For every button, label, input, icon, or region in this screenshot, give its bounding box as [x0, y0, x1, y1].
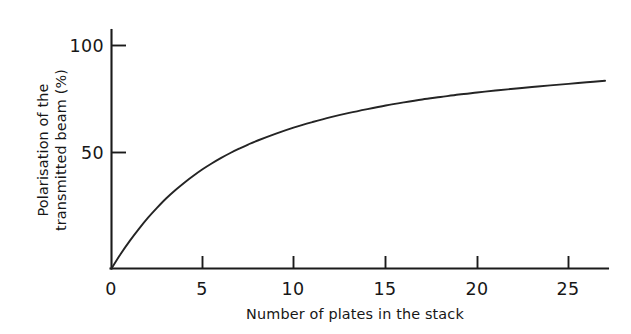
x-tick-label-0: 0 — [105, 279, 117, 299]
x-tick-label-15: 15 — [373, 279, 396, 299]
x-tick-marks — [203, 256, 569, 268]
y-axis-title-line1: Polarisation of the — [35, 83, 51, 216]
x-tick-label-25: 25 — [556, 279, 579, 299]
y-tick-label-100: 100 — [69, 36, 104, 56]
data-curve-polarisation — [112, 81, 606, 269]
x-axis-title: Number of plates in the stack — [246, 306, 464, 322]
plot-canvas: 100 50 0 5 10 15 20 25 Number of plates … — [0, 0, 631, 334]
chart-page: 100 50 0 5 10 15 20 25 Number of plates … — [0, 0, 631, 334]
x-tick-label-20: 20 — [465, 279, 488, 299]
y-tick-marks — [112, 46, 126, 153]
y-tick-label-50: 50 — [81, 143, 104, 163]
x-tick-label-10: 10 — [281, 279, 304, 299]
x-tick-label-5: 5 — [196, 279, 208, 299]
chart-figure: 100 50 0 5 10 15 20 25 Number of plates … — [0, 0, 631, 334]
y-axis-title-line2: transmitted beam (%) — [53, 69, 69, 231]
